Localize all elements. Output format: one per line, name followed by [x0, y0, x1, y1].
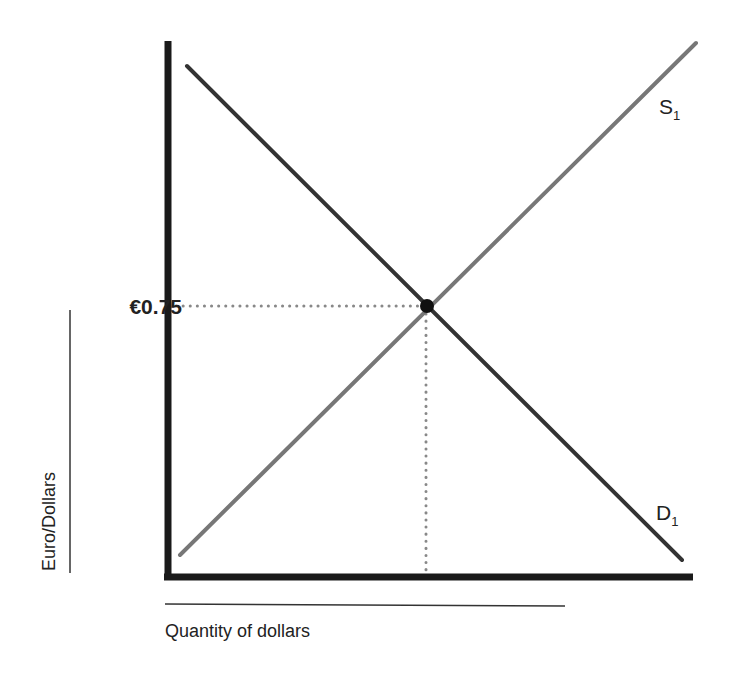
supply-demand-chart: €0.75 S1 D1 Quantity of dollars Euro/Dol…: [0, 0, 732, 674]
equilibrium-point: [420, 299, 434, 313]
supply-curve: [180, 43, 696, 555]
y-axis-label: Euro/Dollars: [39, 472, 59, 571]
x-label-rule: [165, 604, 565, 606]
demand-label: D1: [656, 501, 678, 529]
price-label: €0.75: [129, 295, 182, 318]
supply-label: S1: [659, 95, 680, 123]
x-axis-label: Quantity of dollars: [165, 621, 310, 641]
demand-curve: [187, 66, 682, 560]
